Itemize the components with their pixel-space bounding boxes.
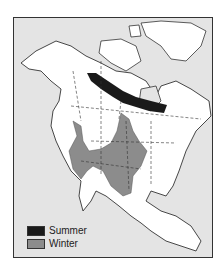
range-map — [13, 17, 213, 258]
winter-swatch — [27, 239, 45, 249]
map-svg — [14, 18, 213, 258]
summer-swatch — [27, 226, 45, 236]
map-legend: Summer Winter — [27, 224, 87, 250]
legend-item-winter: Winter — [27, 237, 87, 250]
legend-label: Summer — [49, 225, 87, 236]
legend-label: Winter — [49, 238, 78, 249]
legend-item-summer: Summer — [27, 224, 87, 237]
greenland — [141, 21, 206, 61]
